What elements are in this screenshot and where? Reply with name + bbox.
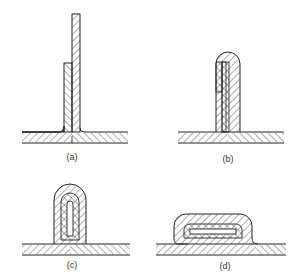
inner-flange: [222, 62, 229, 132]
base-sheet-right: [70, 245, 130, 254]
base-sheet-left: [178, 133, 228, 142]
panel-label-a: (a): [67, 152, 78, 162]
panel-label-c: (c): [67, 260, 78, 270]
panel-d: (d): [156, 214, 286, 271]
base-sheet-left: [22, 133, 72, 142]
seam-folding-diagram: (a) (b) (c) (d): [0, 0, 301, 278]
panel-b: (b): [178, 52, 284, 164]
hem-lip: [216, 62, 222, 92]
inner-fold: [190, 229, 236, 234]
panel-a: (a): [22, 14, 128, 162]
base-sheet-right: [228, 133, 284, 142]
inner-fold: [67, 201, 73, 236]
base-sheet-right: [72, 133, 128, 142]
panel-label-d: (d): [220, 261, 231, 271]
tall-flange: [72, 14, 80, 132]
base-sheet-left: [22, 245, 70, 254]
short-flange: [64, 63, 72, 132]
base-sheet-left: [156, 245, 256, 254]
base-sheet-right: [256, 245, 286, 254]
panel-c: (c): [22, 184, 130, 270]
panel-label-b: (b): [223, 154, 234, 164]
